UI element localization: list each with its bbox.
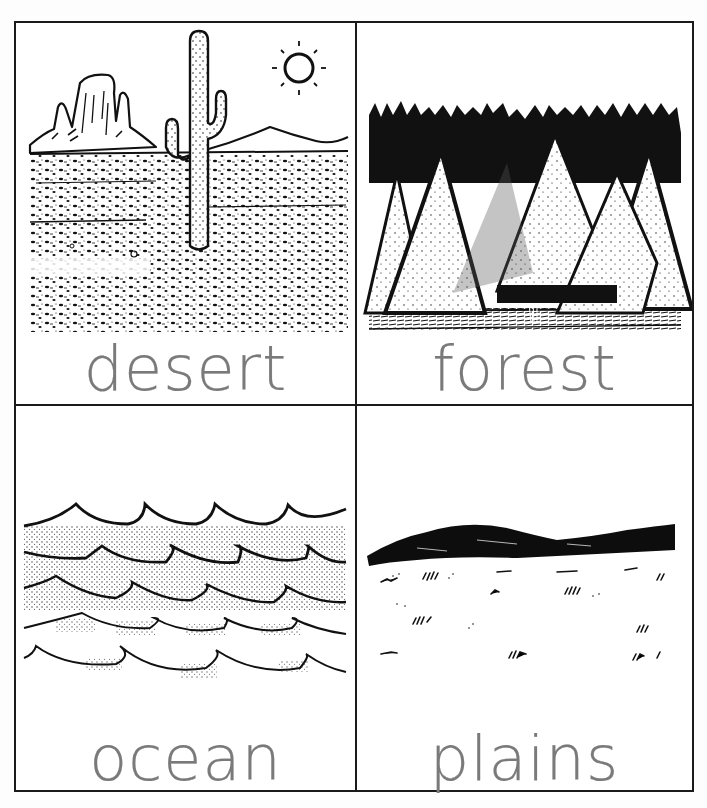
label-forest: forest xyxy=(357,338,692,400)
worksheet-grid: desert xyxy=(14,21,694,792)
label-desert: desert xyxy=(16,338,355,400)
card-ocean: ocean xyxy=(16,406,355,792)
label-plains: plains xyxy=(357,728,692,790)
card-plains: plains xyxy=(357,406,692,792)
label-ocean: ocean xyxy=(16,728,355,790)
card-forest: forest xyxy=(357,23,692,404)
card-desert: desert xyxy=(16,23,355,404)
